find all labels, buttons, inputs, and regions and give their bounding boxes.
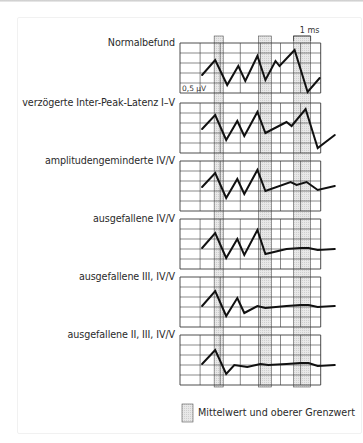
time-scale-label: 1 ms [300, 26, 320, 35]
amplitude-scale-label: 0,5 µV [182, 84, 207, 93]
baep-diagram: 1 ms0,5 µV [0, 0, 363, 443]
legend-swatch [182, 404, 193, 422]
legend-label: Mittelwert und oberer Grenzwert [198, 407, 355, 418]
band-wave-V [294, 36, 311, 387]
band-wave-I [214, 36, 223, 387]
